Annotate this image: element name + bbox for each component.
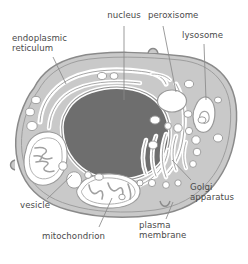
peroxisome-shape bbox=[158, 90, 187, 112]
label-lysosome: lysosome bbox=[182, 30, 223, 40]
label-endoplasmic-reticulum: endoplasmic reticulum bbox=[12, 33, 67, 53]
label-golgi-line1: Golgi bbox=[190, 182, 234, 192]
label-plasma-membrane-line1: plasma bbox=[139, 220, 186, 230]
label-peroxisome: peroxisome bbox=[148, 10, 198, 20]
label-golgi-line2: apparatus bbox=[190, 192, 234, 202]
mitochondrion-bottom-shape bbox=[77, 174, 141, 208]
label-golgi-apparatus: Golgi apparatus bbox=[190, 182, 234, 202]
label-mitochondrion: mitochondrion bbox=[42, 231, 105, 241]
vesicle-small bbox=[59, 162, 67, 170]
label-endoplasmic-reticulum-line2: reticulum bbox=[12, 43, 67, 53]
label-plasma-membrane-line2: membrane bbox=[139, 230, 186, 240]
cell-diagram-figure: nucleus peroxisome lysosome endoplasmic … bbox=[0, 0, 248, 264]
label-nucleus: nucleus bbox=[96, 10, 152, 20]
label-plasma-membrane: plasma membrane bbox=[139, 220, 186, 240]
label-endoplasmic-reticulum-line1: endoplasmic bbox=[12, 33, 67, 43]
vesicle-large bbox=[67, 172, 82, 188]
label-vesicle: vesicle bbox=[20, 200, 50, 210]
